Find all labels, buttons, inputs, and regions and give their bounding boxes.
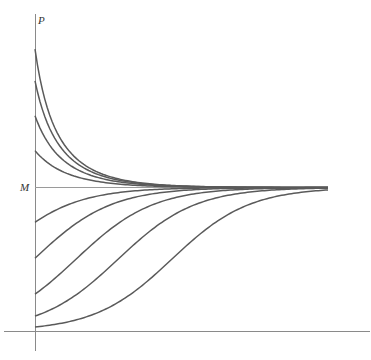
y-axis-label: P: [37, 14, 45, 26]
solution-curves: [35, 49, 328, 327]
solution-curve: [35, 151, 328, 188]
logistic-chart: P M: [0, 0, 371, 360]
solution-curve: [35, 188, 328, 259]
solution-curve: [35, 81, 328, 188]
solution-curve: [35, 188, 328, 223]
solution-curve: [35, 188, 328, 316]
carrying-capacity-label: M: [19, 181, 30, 193]
solution-curve: [35, 49, 328, 187]
solution-curve: [35, 188, 328, 294]
